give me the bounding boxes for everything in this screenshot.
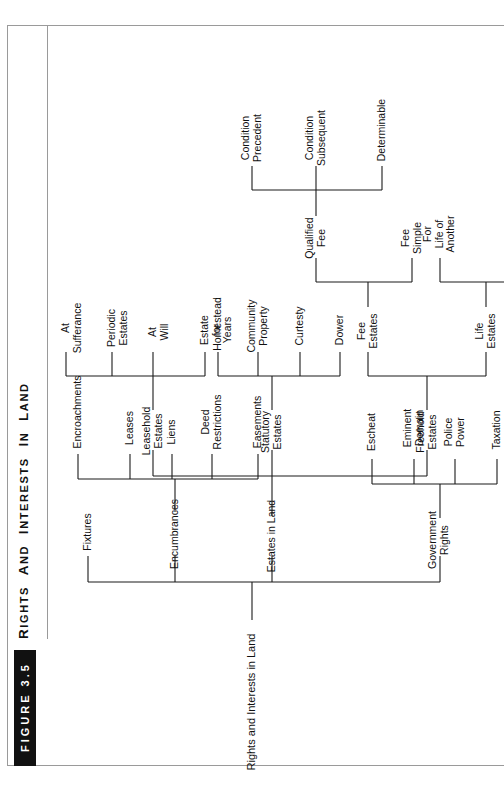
figure-page: FIGURE 3.5 RIGHTS AND INTERESTS IN LAND [0,0,504,794]
node-at-sufferance: At Sufferance [60,301,83,355]
node-liens: Liens [166,412,178,452]
tree-diagram: Rights and Interests in Land Government … [0,0,504,794]
node-statutory-estates: Statutory Estates [260,403,283,461]
node-fee-estates: Fee Estates [356,307,379,355]
node-at-will: At Will [147,315,170,349]
node-condition-precedent: Condition Precedent [240,109,263,167]
node-qualified-fee: Qualified Fee [304,214,327,262]
node-fee-simple: Fee Simple [400,217,423,259]
node-freehold-estates: Freehold Estates [415,403,438,461]
node-dower: Dower [334,308,346,352]
node-life-estates: Life Estates [474,307,497,355]
node-fixtures: Fixtures [82,500,94,564]
node-curtesty: Curtesty [294,300,306,352]
node-determinable: Determinable [376,92,388,168]
node-leasehold-estates: Leasehold Estates [141,400,164,462]
node-periodic-estates: Periodic Estates [106,304,129,352]
node-estate-for-years: Estate for Years [199,309,234,351]
node-encroachments: Encroachments [72,370,84,454]
node-root: Rights and Interests in Land [246,620,258,784]
rotated-figure-canvas: FIGURE 3.5 RIGHTS AND INTERESTS IN LAND [0,0,504,794]
node-police-power: Police Power [443,409,466,455]
node-escheat: Escheat [366,405,378,459]
node-condition-subsequent: Condition Subsequent [304,107,327,169]
node-for-life-of-another: For Life of Another [422,209,457,259]
node-estates-in-land: Estates in Land [266,494,278,578]
node-encumbrances: Encumbrances [169,490,181,578]
node-community-property: Community Property [246,294,269,358]
node-taxation: Taxation [491,401,503,459]
node-government-rights: Government Rights [427,501,450,579]
node-deed-restrictions: Deed Restrictions [200,394,223,450]
node-leases: Leases [124,405,136,451]
